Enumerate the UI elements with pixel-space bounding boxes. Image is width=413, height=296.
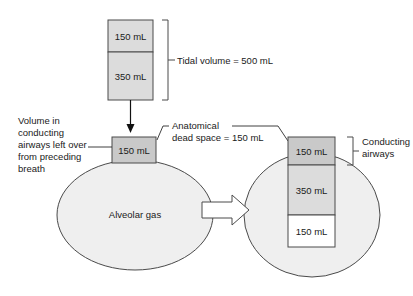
- leftover-label-line4: from preceding: [18, 151, 81, 162]
- dead-space-leader-left: [157, 126, 169, 140]
- diagram-canvas: 150 mL 350 mL Tidal volume = 500 mL 150 …: [0, 0, 413, 296]
- dead-space-label-line1: Anatomical: [172, 120, 219, 131]
- alveolar-gas-label: Alveolar gas: [109, 209, 162, 220]
- dead-space-label-line2: dead space = 150 mL: [172, 132, 264, 143]
- tidal-volume-bracket: [162, 20, 168, 100]
- right-stack-label-bottom: 150 mL: [296, 226, 328, 237]
- conducting-airways-bracket: [347, 137, 353, 165]
- inspiration-arrow-head: [127, 124, 135, 133]
- inspired-deadspace-label: 150 mL: [115, 31, 147, 42]
- conducting-airways-label-line1: Conducting: [362, 136, 410, 147]
- left-conducting-airway-label: 150 mL: [118, 145, 150, 156]
- tidal-volume-label: Tidal volume = 500 mL: [177, 55, 273, 66]
- right-stack-label-top: 150 mL: [296, 146, 328, 157]
- inspired-alveolar-label: 350 mL: [115, 71, 147, 82]
- right-stack-label-middle: 350 mL: [296, 185, 328, 196]
- leftover-label-line1: Volume in: [18, 115, 60, 126]
- leftover-label-line5: breath: [18, 163, 45, 174]
- leftover-label-line3: airways left over: [18, 139, 87, 150]
- conducting-airways-label-line2: airways: [362, 148, 394, 159]
- leftover-label-line2: conducting: [18, 127, 64, 138]
- respiratory-dead-space-diagram: 150 mL 350 mL Tidal volume = 500 mL 150 …: [0, 0, 413, 296]
